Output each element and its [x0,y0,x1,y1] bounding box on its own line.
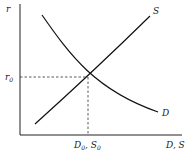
supply-curve [35,16,150,124]
supply-demand-chart: r r0 S D D0, S0 D, S [0,0,194,159]
demand-label: D [161,108,169,118]
supply-label: S [153,6,159,16]
equilibrium-quantity-label: D0, S0 [73,140,101,151]
x-axis-label: D, S [165,140,185,150]
r0-label: r0 [5,72,13,83]
y-axis-label: r [6,4,11,14]
